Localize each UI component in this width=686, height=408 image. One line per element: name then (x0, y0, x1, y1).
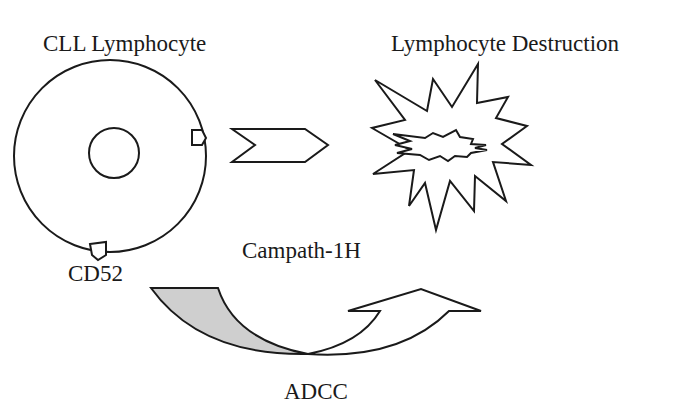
cd52-label: CD52 (68, 262, 123, 285)
cell-nucleus (89, 128, 139, 178)
cd52-antigen-icon (90, 242, 106, 260)
cll-lymphocyte-cell (14, 60, 206, 252)
diagram-canvas (0, 0, 686, 408)
chevron-right-arrow-icon (232, 129, 328, 162)
campath-label: Campath-1H (242, 239, 361, 262)
adcc-arrow-tail-shaded (151, 288, 308, 354)
campath-mechanism-diagram: CLL Lymphocyte Lymphocyte Destruction CD… (0, 0, 686, 408)
cll-lymphocyte-label: CLL Lymphocyte (43, 32, 206, 55)
cd52-antigen-on-cell-icon (192, 130, 206, 145)
adcc-label: ADCC (284, 380, 348, 403)
adcc-curved-arrow-icon (308, 289, 481, 355)
cell-membrane (14, 60, 206, 252)
lymphocyte-destruction-label: Lymphocyte Destruction (391, 32, 619, 55)
